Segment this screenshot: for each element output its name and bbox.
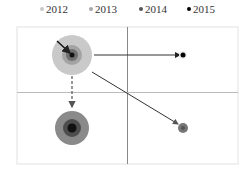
bubble-d <box>178 123 188 133</box>
bubble-b <box>179 51 187 59</box>
arrow-a-to-d <box>92 72 178 124</box>
bubble-plot <box>0 0 251 175</box>
bubble-c <box>55 111 89 145</box>
